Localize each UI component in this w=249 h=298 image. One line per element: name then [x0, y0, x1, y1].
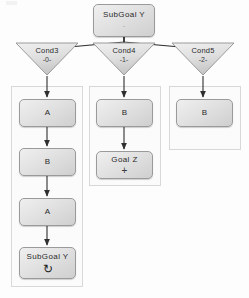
node-left-a-label: A [45, 108, 51, 118]
node-right-b[interactable]: B [176, 99, 233, 127]
node-mid-goal-z[interactable]: Goal Z + [96, 151, 153, 179]
loop-icon: ↻ [43, 263, 53, 275]
node-root-label: SubGoal Y [103, 10, 145, 20]
node-root[interactable]: SubGoal Y - [93, 4, 155, 37]
scan-artifact [6, 1, 17, 5]
node-left-b[interactable]: B [19, 148, 76, 176]
node-cond4[interactable]: Cond4 -1- [92, 42, 156, 76]
node-left-a[interactable]: A [19, 99, 76, 127]
cond4-triangle-shape [92, 42, 156, 76]
node-left-subgoal[interactable]: SubGoal Y ↻ [19, 247, 76, 279]
node-left-subgoal-label: SubGoal Y [26, 252, 68, 262]
node-right-b-label: B [202, 108, 208, 118]
diagram-canvas: SubGoal Y - Cond3 -0- [0, 0, 249, 298]
node-left-a2-label: A [45, 207, 51, 217]
node-cond3[interactable]: Cond3 -0- [15, 42, 79, 76]
cond3-triangle-shape [15, 42, 79, 76]
node-cond5[interactable]: Cond5 -2- [171, 42, 235, 76]
cond5-triangle-shape [171, 42, 235, 76]
node-mid-goal-z-label: Goal Z [111, 155, 137, 165]
node-left-b-label: B [45, 157, 51, 167]
node-mid-b[interactable]: B [96, 99, 153, 127]
plus-icon: + [122, 166, 128, 176]
node-left-a2[interactable]: A [19, 198, 76, 226]
node-root-sublabel: - [123, 21, 125, 31]
node-mid-b-label: B [122, 108, 128, 118]
